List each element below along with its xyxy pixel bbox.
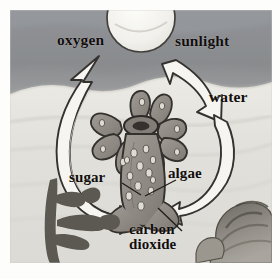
label-carbon-dioxide: carbon dioxide xyxy=(129,222,176,253)
label-carbon-dioxide-line2: dioxide xyxy=(129,237,176,252)
label-carbon-dioxide-line1: carbon xyxy=(129,222,176,237)
label-sugar: sugar xyxy=(69,170,105,185)
label-sunlight: sunlight xyxy=(175,33,229,49)
illustration-page: oxygen sunlight water sugar algae carbon… xyxy=(0,0,280,279)
label-water: water xyxy=(209,89,247,105)
label-algae: algae xyxy=(168,166,202,181)
label-oxygen: oxygen xyxy=(57,32,104,48)
